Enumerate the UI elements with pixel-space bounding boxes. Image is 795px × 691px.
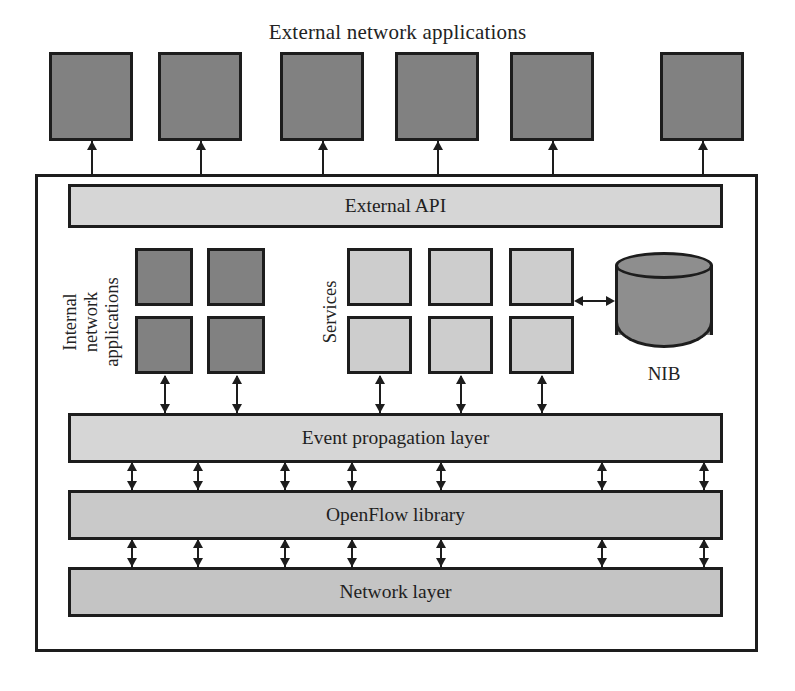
arrowhead-down-n4 xyxy=(347,558,357,567)
arrowhead-down-e1 xyxy=(127,481,137,490)
arrowhead-up-e5 xyxy=(436,462,446,471)
arrowhead-up-n3 xyxy=(280,539,290,548)
external-app-box-2 xyxy=(158,52,242,141)
arrowhead-down-e3 xyxy=(280,481,290,490)
arrowhead-down-e7 xyxy=(699,481,709,490)
arrowhead-down-e6 xyxy=(597,481,607,490)
external-app-box-1 xyxy=(49,52,133,141)
arrowhead-up-e1 xyxy=(127,462,137,471)
arrowhead-down-b5 xyxy=(537,404,547,413)
arrowhead-down-e4 xyxy=(347,481,357,490)
arrowhead-up-b3 xyxy=(375,375,385,384)
internal-app-box-4 xyxy=(207,316,265,374)
internal-app-box-2 xyxy=(207,248,265,306)
arrowhead-down-b2 xyxy=(232,404,242,413)
arrowhead-right-nib xyxy=(606,296,615,306)
arrowhead-down-n7 xyxy=(699,558,709,567)
diagram-canvas: External network applications External A… xyxy=(0,0,795,691)
external-app-box-4 xyxy=(395,52,479,141)
openflow-library-label: OpenFlow library xyxy=(326,504,465,526)
external-app-box-6 xyxy=(660,52,744,141)
arrowhead-down-n5 xyxy=(436,558,446,567)
arrowhead-down-e2 xyxy=(193,481,203,490)
internal-app-box-1 xyxy=(135,248,193,306)
arrowhead-up-4 xyxy=(433,141,443,150)
arrowhead-up-e6 xyxy=(597,462,607,471)
arrowhead-down-n3 xyxy=(280,558,290,567)
service-box-3 xyxy=(509,248,574,306)
service-box-1 xyxy=(347,248,412,306)
arrowhead-up-n4 xyxy=(347,539,357,548)
arrowhead-up-b1 xyxy=(160,375,170,384)
arrowhead-up-n5 xyxy=(436,539,446,548)
openflow-library-bar[interactable]: OpenFlow library xyxy=(68,490,723,540)
external-api-label: External API xyxy=(345,195,446,217)
arrowhead-up-n1 xyxy=(127,539,137,548)
external-app-box-5 xyxy=(510,52,594,141)
external-api-bar[interactable]: External API xyxy=(68,184,723,228)
internal-app-box-3 xyxy=(135,316,193,374)
internal-network-applications-label: Internal network applications xyxy=(60,252,123,392)
arrowhead-up-e3 xyxy=(280,462,290,471)
nib-cylinder xyxy=(615,252,713,348)
arrowhead-up-n2 xyxy=(193,539,203,548)
service-box-4 xyxy=(347,316,412,374)
arrowhead-up-2 xyxy=(196,141,206,150)
external-app-box-3 xyxy=(280,52,364,141)
arrowhead-up-b5 xyxy=(537,375,547,384)
arrowhead-up-1 xyxy=(87,141,97,150)
network-layer-label: Network layer xyxy=(339,581,451,603)
arrowhead-up-5 xyxy=(548,141,558,150)
arrowhead-down-b3 xyxy=(375,404,385,413)
arrowhead-down-e5 xyxy=(436,481,446,490)
service-box-2 xyxy=(428,248,493,306)
arrowhead-up-n7 xyxy=(699,539,709,548)
network-layer-bar[interactable]: Network layer xyxy=(68,567,723,617)
event-propagation-layer-label: Event propagation layer xyxy=(302,427,489,449)
arrowhead-up-b4 xyxy=(456,375,466,384)
service-box-5 xyxy=(428,316,493,374)
arrowhead-up-e7 xyxy=(699,462,709,471)
service-box-6 xyxy=(509,316,574,374)
cylinder-top xyxy=(615,252,713,279)
cylinder-bottom xyxy=(615,322,713,348)
nib-label: NIB xyxy=(612,363,716,385)
arrowhead-up-e2 xyxy=(193,462,203,471)
arrowhead-left-nib xyxy=(574,296,583,306)
arrowhead-down-n6 xyxy=(597,558,607,567)
arrowhead-up-n6 xyxy=(597,539,607,548)
arrowhead-down-n2 xyxy=(193,558,203,567)
event-propagation-layer-bar[interactable]: Event propagation layer xyxy=(68,413,723,463)
arrowhead-up-b2 xyxy=(232,375,242,384)
services-label: Services xyxy=(320,252,341,372)
arrowhead-down-b1 xyxy=(160,404,170,413)
arrowhead-down-b4 xyxy=(456,404,466,413)
diagram-title: External network applications xyxy=(0,20,795,45)
arrowhead-up-6 xyxy=(698,141,708,150)
arrowhead-up-3 xyxy=(318,141,328,150)
arrowhead-up-e4 xyxy=(347,462,357,471)
arrowhead-down-n1 xyxy=(127,558,137,567)
